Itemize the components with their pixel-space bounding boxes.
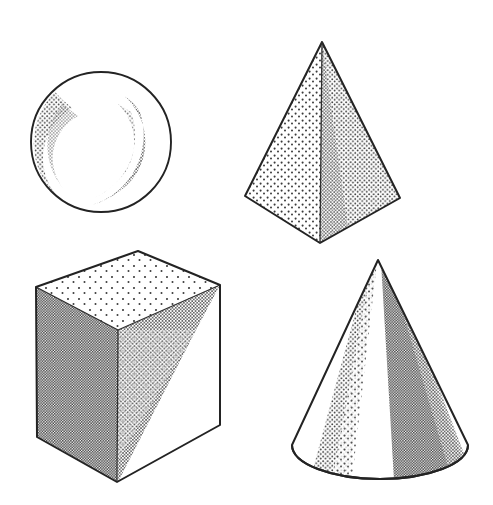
figure-canvas: Four shaded geometric solids Line drawin… xyxy=(0,0,493,505)
geometric-solids-figure: Four shaded geometric solids Line drawin… xyxy=(0,0,493,505)
